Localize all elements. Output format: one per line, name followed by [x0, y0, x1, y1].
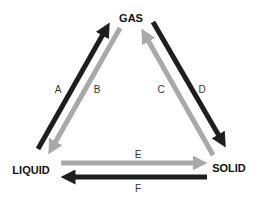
arrow-label-a: A	[55, 84, 62, 95]
state-label-liquid: LIQUID	[12, 164, 49, 176]
arrow-c	[145, 35, 213, 155]
arrow-label-c: C	[157, 84, 164, 95]
arrow-label-f: F	[135, 183, 141, 194]
state-label-gas: GAS	[119, 12, 143, 24]
phase-diagram: GAS LIQUID SOLID A B C D E F	[0, 0, 259, 198]
state-label-solid: SOLID	[212, 162, 246, 174]
arrow-label-b: B	[94, 84, 101, 95]
arrow-d	[153, 22, 222, 141]
arrow-b	[52, 28, 120, 148]
arrow-label-e: E	[135, 149, 142, 160]
arrow-label-d: D	[198, 84, 205, 95]
